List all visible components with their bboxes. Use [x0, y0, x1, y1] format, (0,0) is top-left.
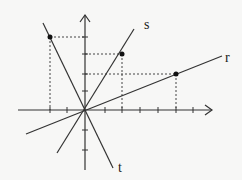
line-r: [26, 56, 222, 134]
points: [48, 35, 179, 77]
label-r: r: [225, 50, 230, 65]
line-t: [43, 23, 113, 168]
label-s: s: [144, 17, 149, 32]
coordinate-diagram: s r t: [0, 0, 242, 180]
axes: [18, 15, 212, 170]
lines: [26, 23, 222, 168]
label-t: t: [118, 160, 122, 175]
